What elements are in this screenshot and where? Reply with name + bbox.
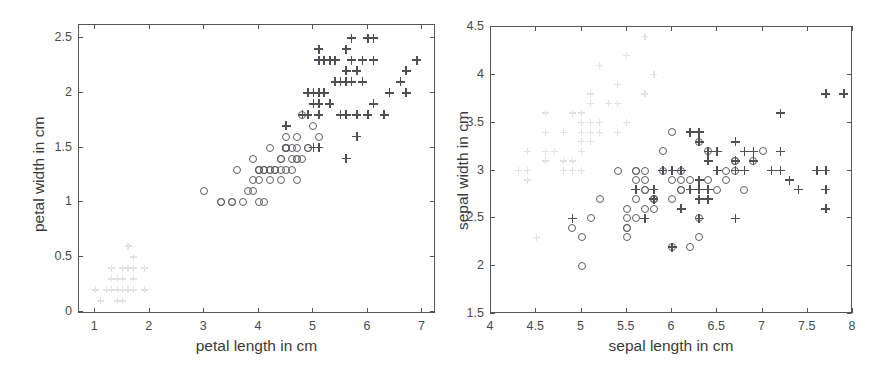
marker-circle	[641, 176, 649, 184]
marker-plus	[568, 214, 577, 223]
marker-faint	[524, 167, 531, 174]
panel-petal: 123456700.511.522.5 petal length in cm p…	[0, 0, 442, 375]
marker-circle	[623, 224, 631, 232]
marker-circle	[668, 176, 676, 184]
marker-circle	[266, 176, 274, 184]
marker-faint	[114, 297, 121, 304]
marker-plus	[336, 110, 345, 119]
marker-circle	[260, 166, 268, 174]
marker-faint	[533, 234, 540, 241]
marker-plus	[821, 89, 830, 98]
marker-plus	[363, 110, 372, 119]
x-tick-label: 4	[487, 319, 494, 333]
marker-plus	[649, 195, 658, 204]
x-tick-top	[807, 26, 808, 31]
axes-petal	[78, 24, 435, 313]
marker-circle	[686, 243, 694, 251]
marker-faint	[614, 129, 621, 136]
marker-faint	[614, 81, 621, 88]
marker-circle	[587, 214, 595, 222]
marker-faint	[119, 265, 126, 272]
marker-faint	[114, 275, 121, 282]
marker-faint	[596, 119, 603, 126]
marker-plus	[695, 214, 704, 223]
marker-faint	[560, 129, 567, 136]
marker-faint	[560, 167, 567, 174]
marker-plus	[320, 56, 329, 65]
x-tick-label: 6.5	[708, 319, 725, 333]
x-tick-label: 5.5	[617, 319, 634, 333]
marker-circle	[277, 155, 285, 163]
marker-circle	[217, 198, 225, 206]
marker-faint	[515, 167, 522, 174]
marker-plus	[412, 56, 421, 65]
y-tick	[490, 313, 495, 314]
y-tick-right	[430, 92, 435, 93]
marker-plus	[749, 147, 758, 156]
marker-faint	[551, 148, 558, 155]
y-tick-right	[847, 265, 852, 266]
marker-circle	[568, 224, 576, 232]
marker-circle	[668, 195, 676, 203]
marker-plus	[352, 66, 361, 75]
x-tick	[581, 308, 582, 313]
marker-faint	[614, 100, 621, 107]
x-tick	[367, 308, 368, 313]
x-tick-label: 7.5	[798, 319, 815, 333]
marker-circle	[282, 133, 290, 141]
marker-plus	[794, 185, 803, 194]
marker-faint	[596, 129, 603, 136]
marker-faint	[623, 52, 630, 59]
marker-circle	[596, 195, 604, 203]
marker-faint	[92, 286, 99, 293]
x-tick-label: 5	[309, 319, 316, 333]
marker-plus	[640, 214, 649, 223]
y-tick-right	[847, 217, 852, 218]
x-tick-label: 7	[758, 319, 765, 333]
marker-faint	[569, 110, 576, 117]
marker-plus	[385, 88, 394, 97]
marker-circle	[695, 233, 703, 241]
marker-circle	[293, 144, 301, 152]
y-tick	[78, 201, 83, 202]
marker-circle	[293, 133, 301, 141]
marker-circle	[659, 147, 667, 155]
marker-circle	[623, 233, 631, 241]
marker-circle	[713, 186, 721, 194]
marker-plus	[776, 109, 785, 118]
marker-plus	[369, 56, 378, 65]
marker-plus	[704, 195, 713, 204]
y-tick	[490, 74, 495, 75]
marker-plus	[369, 99, 378, 108]
marker-circle	[233, 166, 241, 174]
marker-plus	[358, 77, 367, 86]
y-tick-label: 2	[38, 85, 72, 99]
y-tick-right	[430, 256, 435, 257]
marker-plus	[740, 166, 749, 175]
marker-circle	[722, 167, 730, 175]
marker-faint	[569, 167, 576, 174]
y-tick-label: 0	[38, 304, 72, 318]
y-tick-right	[847, 74, 852, 75]
marker-plus	[785, 176, 794, 185]
marker-plus	[342, 45, 351, 54]
x-tick-label: 1	[91, 319, 98, 333]
marker-plus	[314, 110, 323, 119]
marker-circle	[759, 147, 767, 155]
marker-plus	[731, 156, 740, 165]
x-tick-top	[535, 26, 536, 31]
marker-faint	[587, 90, 594, 97]
marker-plus	[686, 128, 695, 137]
marker-plus	[731, 166, 740, 175]
marker-circle	[309, 122, 317, 130]
x-tick-label: 5	[577, 319, 584, 333]
marker-faint	[130, 275, 137, 282]
x-tick	[421, 308, 422, 313]
marker-circle	[288, 155, 296, 163]
marker-circle	[260, 198, 268, 206]
marker-plus	[303, 88, 312, 97]
y-tick-right	[847, 313, 852, 314]
marker-faint	[596, 62, 603, 69]
y-tick-right	[430, 311, 435, 312]
marker-circle	[623, 205, 631, 213]
